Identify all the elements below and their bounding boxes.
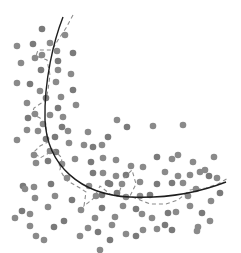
data-point — [41, 237, 48, 244]
data-point — [175, 173, 182, 180]
data-point — [199, 210, 206, 217]
data-point — [211, 154, 218, 161]
data-point — [54, 48, 61, 55]
data-point — [109, 222, 116, 229]
data-point — [27, 223, 34, 230]
data-point — [137, 193, 144, 200]
data-point — [99, 205, 106, 212]
data-point — [208, 198, 215, 205]
data-point — [58, 94, 65, 101]
data-point — [169, 180, 176, 187]
data-point — [70, 87, 77, 94]
data-point — [123, 231, 130, 238]
data-point — [27, 81, 34, 88]
data-points — [12, 26, 224, 253]
data-point — [52, 134, 59, 141]
data-point — [92, 215, 99, 222]
data-point — [24, 100, 31, 107]
data-point — [206, 173, 213, 180]
data-point — [53, 79, 60, 86]
data-point — [55, 105, 62, 112]
data-point — [69, 197, 76, 204]
data-point — [33, 233, 40, 240]
data-point — [190, 159, 197, 166]
data-point — [31, 184, 38, 191]
data-point — [48, 181, 55, 188]
data-point — [207, 218, 214, 225]
data-point — [61, 218, 68, 225]
data-point — [47, 40, 54, 47]
data-point — [149, 215, 156, 222]
data-point — [100, 170, 107, 177]
data-point — [217, 190, 224, 197]
data-point — [33, 160, 40, 167]
data-point — [90, 170, 97, 177]
data-point — [55, 67, 62, 74]
data-point — [97, 247, 104, 253]
data-point — [32, 55, 39, 62]
data-point — [214, 175, 221, 182]
data-point — [14, 80, 21, 87]
data-point — [14, 137, 21, 144]
data-point — [68, 71, 75, 78]
data-point — [175, 152, 182, 159]
data-point — [25, 115, 32, 122]
data-point — [133, 206, 140, 213]
data-point — [12, 215, 19, 222]
data-point — [51, 224, 58, 231]
data-point — [73, 102, 80, 109]
data-point — [95, 229, 102, 236]
data-point — [22, 186, 29, 193]
data-point — [45, 204, 52, 211]
data-point — [45, 158, 52, 165]
data-point — [70, 50, 77, 57]
data-point — [99, 142, 106, 149]
data-point — [112, 214, 119, 221]
data-point — [59, 124, 66, 131]
data-point — [139, 211, 146, 218]
data-point — [60, 114, 67, 121]
data-point — [140, 164, 147, 171]
data-point — [27, 211, 34, 218]
data-point — [77, 233, 84, 240]
data-point — [35, 128, 42, 135]
data-point — [55, 58, 62, 65]
scatter-diagram — [0, 0, 241, 253]
data-point — [100, 155, 107, 162]
data-point — [81, 142, 88, 149]
data-point — [114, 117, 121, 124]
data-point — [107, 181, 114, 188]
data-point — [66, 140, 73, 147]
data-point — [113, 173, 120, 180]
data-point — [78, 207, 85, 214]
data-point — [85, 225, 92, 232]
data-point — [197, 169, 204, 176]
data-point — [18, 60, 25, 67]
data-point — [137, 179, 144, 186]
data-point — [72, 156, 79, 163]
data-point — [47, 112, 54, 119]
data-point — [187, 172, 194, 179]
data-point — [37, 88, 44, 95]
data-point — [39, 26, 46, 33]
data-point — [107, 237, 114, 244]
data-point — [180, 180, 187, 187]
data-point — [154, 181, 161, 188]
data-point — [154, 226, 161, 233]
data-point — [65, 128, 72, 135]
data-point — [85, 129, 92, 136]
data-point — [105, 134, 112, 141]
data-point — [113, 157, 120, 164]
data-point — [128, 163, 135, 170]
data-point — [120, 203, 127, 210]
data-point — [52, 193, 59, 200]
data-point — [62, 32, 69, 39]
data-point — [88, 159, 95, 166]
data-point — [19, 208, 26, 215]
data-point — [90, 144, 97, 151]
dashed-boundary-curve — [32, 15, 228, 206]
data-point — [169, 156, 176, 163]
data-point — [30, 41, 37, 48]
data-point — [165, 210, 172, 217]
data-point — [162, 222, 169, 229]
